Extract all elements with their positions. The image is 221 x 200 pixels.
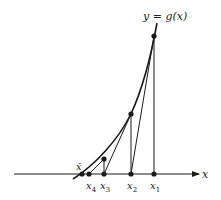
fixed-point-iteration-diagram: y = g(x) x x̄ x4 x3 x2 x1: [0, 0, 221, 200]
axis-point-x4: [86, 171, 91, 176]
x2-label: x2: [127, 180, 137, 194]
x4-label: x4: [86, 180, 97, 194]
curve-label: y = g(x): [142, 10, 187, 23]
axis-point-x2: [128, 171, 133, 176]
axis-point-x3: [101, 171, 106, 176]
x3-label: x3: [100, 180, 110, 194]
line-x2-to-x3: [104, 114, 131, 174]
curve-point-1: [151, 33, 156, 38]
curve-point-3: [101, 156, 106, 161]
axis-point-x1: [151, 171, 156, 176]
axis-label-x: x: [202, 168, 209, 181]
curve-point-2: [128, 111, 133, 116]
axis-point-xbar: [79, 171, 84, 176]
x1-label: x1: [150, 180, 160, 194]
xbar-label: x̄: [76, 161, 82, 172]
curve-g: [73, 23, 157, 179]
